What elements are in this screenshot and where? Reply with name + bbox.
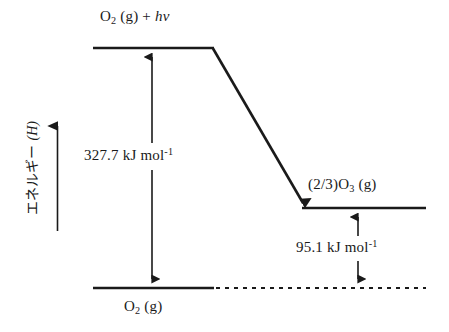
excitation-value: 327.7 [84, 147, 119, 163]
excitation-exponent: -1 [164, 146, 173, 157]
measurement-label-excitation: 327.7 kJ mol-1 [84, 146, 173, 163]
ozone-formation-exponent: -1 [369, 238, 378, 249]
level-label-ozone: (2/3)O3 (g) [308, 176, 377, 194]
energy-level-diagram: エネルギー (H) O2 (g) + hv (2/3)O3 (g) O2 (g)… [0, 0, 449, 332]
reactant-state: (g) + [116, 8, 155, 24]
ozone-state: (g) [355, 176, 377, 192]
diagram-canvas [0, 0, 449, 332]
product-species: O [124, 298, 135, 314]
energy-axis-label: エネルギー (H) [21, 98, 41, 238]
energy-axis-label-text: エネルギー [24, 145, 40, 215]
energy-axis-label-variable: (H) [25, 121, 40, 140]
ozone-formation-unit: kJ mol [323, 239, 369, 255]
product-state: (g) [140, 298, 162, 314]
photon-symbol: hv [155, 8, 170, 24]
level-label-reactant: O2 (g) + hv [100, 8, 170, 26]
level-label-product: O2 (g) [124, 298, 162, 316]
measurement-label-ozone-formation: 95.1 kJ mol-1 [296, 238, 378, 255]
ozone-formation-value: 95.1 [296, 239, 323, 255]
excitation-unit: kJ mol [119, 147, 165, 163]
relaxation-transition-arrow [213, 49, 303, 204]
reactant-species: O [100, 8, 111, 24]
ozone-prefix: (2/3)O [308, 176, 349, 192]
